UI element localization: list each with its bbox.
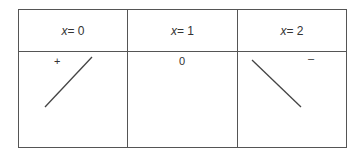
sign-plus: +	[54, 55, 60, 67]
value-zero: 0	[179, 55, 185, 67]
decreasing-line-icon	[238, 52, 346, 148]
sign-table: x = 0 x = 1 x = 2 + 0 –	[18, 9, 347, 148]
sign-minus: –	[308, 52, 314, 64]
header-x1: x = 1	[128, 10, 237, 51]
header-x2: x = 2	[238, 10, 346, 51]
increasing-line-icon	[19, 52, 127, 148]
cell-increasing: +	[19, 52, 127, 148]
header-x0: x = 0	[19, 10, 127, 51]
cell-constant: 0	[128, 52, 237, 148]
cell-decreasing: –	[238, 52, 346, 148]
